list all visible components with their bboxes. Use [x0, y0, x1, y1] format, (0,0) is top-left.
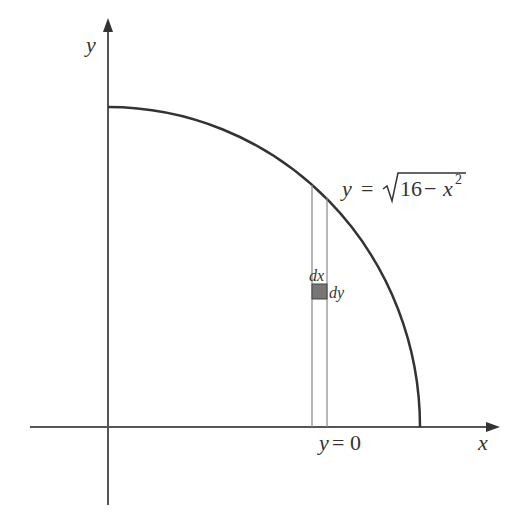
lower-bound-label: y = 0	[317, 430, 361, 455]
x-axis-label: x	[477, 430, 488, 455]
curve-equation: y = 16 − x 2	[340, 172, 466, 201]
equation-radicand-number: 16	[400, 176, 422, 201]
lower-bound-var: y	[317, 430, 329, 455]
dx-label: dx	[309, 267, 324, 284]
quarter-circle-curve	[108, 107, 420, 427]
lower-bound-rest: = 0	[332, 430, 361, 455]
area-element	[312, 284, 327, 299]
equation-lhs: y	[340, 176, 352, 201]
equation-minus: −	[424, 176, 436, 201]
y-axis-arrow-icon	[103, 18, 113, 32]
equation-exponent: 2	[455, 172, 462, 187]
equation-variable: x	[442, 176, 453, 201]
diagram-canvas: y x dx dy y = 16 − x 2 y = 0	[0, 0, 527, 526]
y-axis-label: y	[84, 32, 96, 57]
equation-equals: =	[361, 176, 373, 201]
dy-label: dy	[329, 284, 345, 302]
x-axis-arrow-icon	[486, 422, 500, 432]
